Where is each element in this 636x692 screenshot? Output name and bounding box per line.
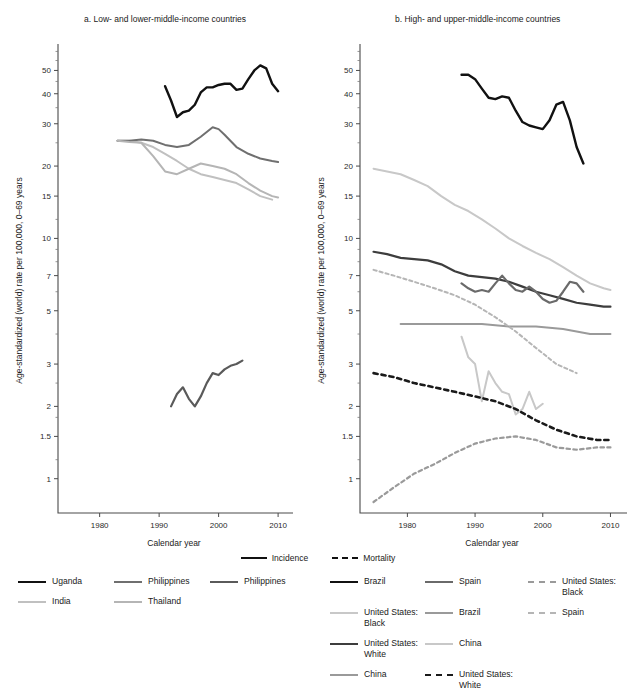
- legend-row: ChinaUnited States: White: [330, 669, 630, 691]
- svg-text:2: 2: [47, 402, 52, 411]
- svg-text:40: 40: [344, 90, 353, 99]
- svg-text:Calendar year: Calendar year: [147, 538, 201, 548]
- legend-item: Brazil: [425, 607, 528, 618]
- legend-swatch-dashed-icon: [332, 557, 358, 559]
- legend-item: Spain: [425, 576, 528, 587]
- svg-text:2010: 2010: [602, 521, 620, 530]
- legend-label: Uganda: [52, 576, 82, 587]
- svg-text:5: 5: [47, 307, 52, 316]
- legend-label: Philippines: [244, 576, 286, 587]
- legend-row: IndiaThailand: [18, 596, 308, 607]
- svg-text:7: 7: [47, 272, 52, 281]
- svg-text:Calendar year: Calendar year: [465, 538, 519, 548]
- legend-swatch-solid-icon: [241, 557, 267, 559]
- series-line-brazil-incidence: [462, 75, 584, 164]
- legend-swatch-solid-icon: [210, 581, 238, 583]
- svg-text:50: 50: [42, 66, 51, 75]
- svg-text:2000: 2000: [210, 521, 228, 530]
- svg-text:40: 40: [42, 90, 51, 99]
- svg-text:50: 50: [344, 66, 353, 75]
- legend-label: Spain: [459, 576, 481, 587]
- legend-item: Philippines: [210, 576, 306, 587]
- legend-measure-item: Incidence: [241, 552, 308, 563]
- series-line-thailand-incidence: [117, 141, 278, 198]
- legend-swatch-solid-icon: [425, 612, 453, 614]
- panel-a-title: a. Low- and lower-middle-income countrie…: [84, 14, 246, 24]
- svg-text:2: 2: [349, 402, 354, 411]
- svg-text:1: 1: [47, 475, 52, 484]
- legend-item: United States: White: [425, 669, 528, 691]
- legend-swatch-solid-icon: [18, 581, 46, 583]
- chart-panel-b: 11.523571015203040501980199020002010Cale…: [302, 40, 636, 552]
- legend-row: UgandaPhilippinesPhilippines: [18, 576, 308, 587]
- series-line-spain-mortality: [374, 270, 577, 373]
- legend-label: United States: White: [364, 638, 418, 660]
- legend-swatch-solid-icon: [425, 581, 453, 583]
- legend-swatch-solid-icon: [114, 581, 142, 583]
- legend-swatch-solid-icon: [330, 581, 358, 583]
- chart-a-svg: 11.523571015203040501980199020002010Cale…: [0, 40, 302, 552]
- series-line-brazil-incidence: [401, 324, 611, 334]
- legend-item: United States: White: [330, 638, 425, 660]
- legend-label: United States: Black: [364, 607, 418, 629]
- legend-item: Uganda: [18, 576, 114, 587]
- svg-text:1.5: 1.5: [342, 432, 354, 441]
- legend-item: Brazil: [330, 576, 425, 587]
- svg-text:1980: 1980: [91, 521, 109, 530]
- svg-text:10: 10: [344, 234, 353, 243]
- legend-label: United States: White: [459, 669, 513, 691]
- legend-item: Philippines: [114, 576, 210, 587]
- legend-item: China: [330, 669, 425, 680]
- series-line-united-states-white-incidence: [374, 252, 611, 307]
- legend-label: Brazil: [459, 607, 481, 618]
- legend-item: Spain: [528, 607, 630, 618]
- series-line-united-states-black-mortality: [374, 436, 611, 502]
- legend-item: China: [425, 638, 528, 649]
- legend-label: India: [52, 596, 71, 607]
- legend-swatch-dashed-icon: [425, 674, 453, 676]
- legend-row: BrazilSpainUnited States: Black: [330, 576, 630, 598]
- svg-text:Age-standardized (world) rate: Age-standardized (world) rate per 100,00…: [316, 177, 326, 383]
- legend-measure-label: Mortality: [363, 553, 395, 563]
- legend-swatch-solid-icon: [425, 643, 453, 645]
- legend-swatch-solid-icon: [330, 643, 358, 645]
- legend-measure-label: Incidence: [272, 553, 308, 563]
- legend-item: United States: Black: [528, 576, 630, 598]
- svg-text:2010: 2010: [269, 521, 287, 530]
- legend-swatch-solid-icon: [114, 601, 142, 603]
- legend-label: China: [459, 638, 481, 649]
- chart-panel-a: 11.523571015203040501980199020002010Cale…: [0, 40, 302, 552]
- svg-text:30: 30: [344, 120, 353, 129]
- legend-label: Thailand: [148, 596, 181, 607]
- legend-measure: IncidenceMortality: [0, 552, 636, 563]
- svg-text:3: 3: [47, 360, 52, 369]
- legend-item: India: [18, 596, 114, 607]
- legend-swatch-dashed-icon: [528, 581, 556, 583]
- legend-measure-item: Mortality: [332, 552, 395, 563]
- svg-text:10: 10: [42, 234, 51, 243]
- legend-item: Thailand: [114, 596, 210, 607]
- svg-text:20: 20: [344, 162, 353, 171]
- series-line-uganda-incidence: [165, 65, 278, 117]
- series-line-philippines-mortality: [171, 361, 242, 407]
- svg-text:3: 3: [349, 360, 354, 369]
- chart-b-svg: 11.523571015203040501980199020002010Cale…: [302, 40, 636, 552]
- svg-text:7: 7: [349, 272, 354, 281]
- legend-panel-b: BrazilSpainUnited States: BlackUnited St…: [330, 576, 630, 692]
- series-line-india-incidence: [117, 141, 272, 200]
- svg-text:15: 15: [344, 192, 353, 201]
- legend-item: United States: Black: [330, 607, 425, 629]
- legend-label: Philippines: [148, 576, 190, 587]
- series-line-united-states-black-incidence: [374, 169, 611, 290]
- legend-swatch-solid-icon: [330, 612, 358, 614]
- legend-label: Spain: [562, 607, 584, 618]
- legend-panel-a: UgandaPhilippinesPhilippinesIndiaThailan…: [18, 576, 308, 616]
- series-line-philippines-incidence: [117, 127, 278, 162]
- svg-text:20: 20: [42, 162, 51, 171]
- svg-text:Age-standardized (world) rate: Age-standardized (world) rate per 100,00…: [14, 177, 24, 383]
- svg-text:15: 15: [42, 192, 51, 201]
- panel-b-title: b. High- and upper-middle-income countri…: [395, 14, 560, 24]
- svg-text:5: 5: [349, 307, 354, 316]
- svg-text:1980: 1980: [398, 521, 416, 530]
- svg-text:1990: 1990: [150, 521, 168, 530]
